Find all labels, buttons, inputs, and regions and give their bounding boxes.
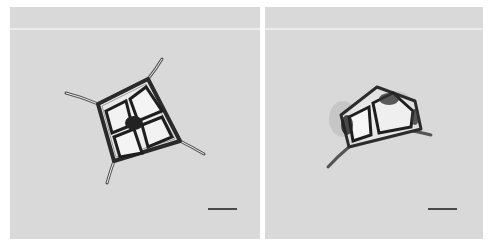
- diatom-cell-right: [265, 7, 483, 239]
- scale-bar-right: [428, 208, 457, 210]
- micrograph-panel-left: [10, 7, 260, 239]
- scale-bar-left: [208, 208, 237, 210]
- diatom-cell-left: [10, 7, 260, 239]
- micrograph-panel-right: [265, 7, 483, 239]
